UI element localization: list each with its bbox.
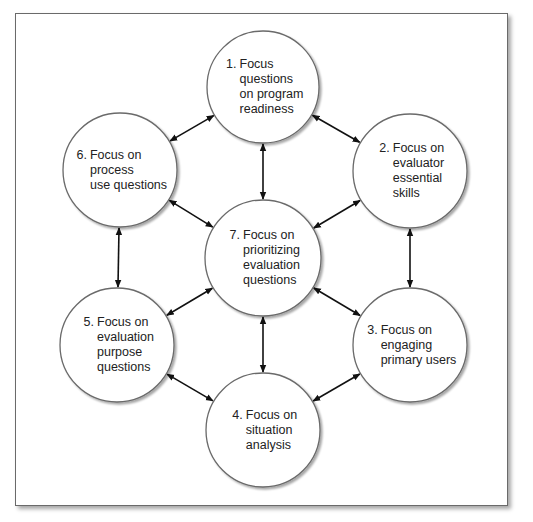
node-label-line: 3.Focus on: [364, 323, 457, 338]
arrow-7-6: [169, 200, 212, 227]
node-label-line: engaging: [364, 338, 457, 353]
node-label-line: skills: [376, 186, 444, 201]
arrow-3-4: [313, 374, 360, 401]
node-label-3: 3.Focus onengagingprimary users: [364, 323, 457, 368]
arrow-7-3: [314, 288, 360, 315]
arrow-6-1: [170, 116, 214, 141]
arrow-4-5: [167, 374, 213, 401]
node-label-6: 6.Focus onprocessuse questions: [73, 148, 167, 193]
node-label-line: evaluation: [226, 258, 300, 273]
node-label-4: 4.Focus onsituationanalysis: [229, 408, 297, 453]
arrow-1-2: [312, 115, 359, 142]
node-label-line: essential: [376, 171, 444, 186]
arrow-7-2: [314, 201, 360, 228]
node-label-line: questions: [226, 273, 300, 288]
arrow-5-6: [118, 228, 119, 287]
node-number: 1.: [223, 57, 237, 72]
node-number: 6.: [73, 148, 87, 163]
node-label-line: evaluator: [376, 156, 444, 171]
node-label-7: 7.Focus onprioritizingevaluationquestion…: [226, 228, 300, 288]
node-label-line: evaluation: [80, 330, 154, 345]
node-label-line: 6.Focus on: [73, 148, 167, 163]
node-label-line: use questions: [73, 178, 167, 193]
node-label-2: 2.Focus onevaluatoressentialskills: [376, 141, 444, 201]
node-label-line: primary users: [364, 353, 457, 368]
node-label-line: on program: [223, 87, 304, 102]
node-label-line: purpose: [80, 345, 154, 360]
node-label-line: 2.Focus on: [376, 141, 444, 156]
node-label-5: 5.Focus onevaluationpurposequestions: [80, 315, 154, 375]
node-number: 3.: [364, 323, 378, 338]
node-label-line: prioritizing: [226, 243, 300, 258]
node-label-line: analysis: [229, 438, 297, 453]
arrow-7-5: [167, 288, 212, 315]
node-number: 4.: [229, 408, 243, 423]
node-label-line: situation: [229, 423, 297, 438]
node-label-line: 5.Focus on: [80, 315, 154, 330]
node-label-line: 1.Focus: [223, 57, 304, 72]
node-label-line: questions: [223, 72, 304, 87]
node-number: 5.: [80, 315, 94, 330]
node-number: 2.: [376, 141, 390, 156]
node-label-line: readiness: [223, 102, 304, 117]
node-label-line: questions: [80, 360, 154, 375]
node-label-line: 7.Focus on: [226, 228, 300, 243]
node-label-line: process: [73, 163, 167, 178]
node-label-1: 1.Focusquestionson programreadiness: [223, 57, 304, 117]
node-number: 7.: [226, 228, 240, 243]
node-label-line: 4.Focus on: [229, 408, 297, 423]
